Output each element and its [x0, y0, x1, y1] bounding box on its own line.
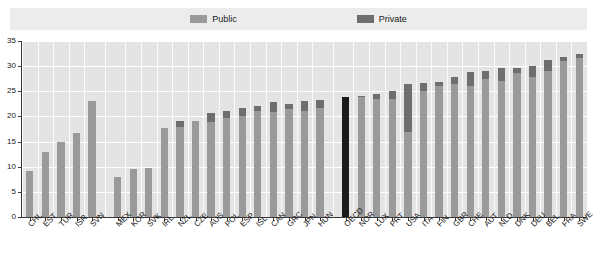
bar-group-irl [161, 41, 168, 217]
bar-group-oecd [342, 41, 349, 217]
bar-segment-public-cze [192, 121, 199, 217]
legend-entry-public: Public [190, 15, 237, 24]
gridline-x-31 [525, 41, 526, 217]
bar-segment-public-can [270, 112, 277, 217]
chart-legend: Public Private [10, 8, 587, 30]
gridline-x-33 [556, 41, 557, 217]
bar-segment-private-hun [316, 100, 323, 108]
gridline-x-1 [38, 41, 39, 217]
y-tick-label-20: 20 [7, 112, 16, 120]
y-tick-mark-30 [18, 66, 22, 67]
bar-group-tur [57, 41, 64, 217]
bar-segment-private-pol [223, 111, 230, 118]
bar-group-deu [529, 41, 536, 217]
gridline-x-20 [353, 41, 354, 217]
bar-group-svn [88, 41, 95, 217]
bar-segment-public-fra [560, 61, 567, 217]
bar-segment-public-esp [239, 116, 246, 217]
legend-entry-private: Private [357, 15, 407, 24]
legend-swatch-public-icon [190, 15, 207, 23]
gridline-x-10 [188, 41, 189, 217]
gridline-x-8 [157, 41, 158, 217]
y-tick-label-25: 25 [7, 87, 16, 95]
bar-segment-private-aus [207, 113, 214, 122]
gridline-x-32 [540, 41, 541, 217]
gridline-x-21 [369, 41, 370, 217]
bar-segment-private-jpn [301, 101, 308, 111]
bar-group-che [467, 41, 474, 217]
bar-group-aus [207, 41, 214, 217]
bar-group-est [42, 41, 49, 217]
bar-group-kor [130, 41, 137, 217]
bar-segment-private-che [467, 72, 474, 87]
bar-group-esp [239, 41, 246, 217]
bar-group-bel [544, 41, 551, 217]
gridline-x-26 [447, 41, 448, 217]
legend-label-private: Private [379, 15, 407, 24]
bar-segment-public-deu [529, 77, 536, 217]
bar-group-nld [498, 41, 505, 217]
bar-segment-public-hun [316, 108, 323, 217]
bar-group-usa [404, 41, 411, 217]
gridline-x-9 [172, 41, 173, 217]
bar-segment-private-gbr [451, 77, 458, 84]
bar-segment-public-svn [88, 101, 95, 217]
bar-group-ita [420, 41, 427, 217]
bar-segment-private-lux [373, 94, 380, 99]
bar-segment-private-oecd [342, 97, 349, 113]
bar-group-nor [358, 41, 365, 217]
gridline-x-27 [462, 41, 463, 217]
y-tick-label-30: 30 [7, 62, 16, 70]
bar-group-svk [145, 41, 152, 217]
legend-label-public: Public [212, 15, 237, 24]
bar-group-isr [73, 41, 80, 217]
gridline-x-14 [250, 41, 251, 217]
bar-segment-private-ita [420, 83, 427, 91]
bar-segment-public-svk [145, 168, 152, 217]
y-axis-line [21, 41, 22, 217]
gridline-x-34 [571, 41, 572, 217]
gridline-x-24 [416, 41, 417, 217]
bar-segment-private-esp [239, 108, 246, 116]
bar-segment-public-bel [544, 71, 551, 217]
bar-group-swe [576, 41, 583, 217]
bar-segment-private-deu [529, 66, 536, 77]
gridline-x-2 [53, 41, 54, 217]
bar-segment-public-kor [130, 169, 137, 217]
bar-group-grc [285, 41, 292, 217]
gridline-x-16 [281, 41, 282, 217]
bar-segment-private-nld [498, 68, 505, 81]
y-tick-label-35: 35 [7, 37, 16, 45]
bar-group-lux [373, 41, 380, 217]
bar-segment-public-aut [482, 79, 489, 217]
bar-group-mex [114, 41, 121, 217]
bar-segment-public-isl [254, 111, 261, 217]
gridline-x-12 [219, 41, 220, 217]
bar-segment-private-swe [576, 54, 583, 59]
bar-segment-public-oecd [342, 113, 349, 217]
bar-segment-private-aut [482, 71, 489, 79]
bar-segment-private-can [270, 102, 277, 113]
gridline-x-0 [22, 41, 23, 217]
gridline-x-29 [494, 41, 495, 217]
legend-swatch-private-icon [357, 15, 374, 23]
bar-segment-public-grc [285, 109, 292, 217]
bar-segment-public-gbr [451, 84, 458, 217]
chart-figure: Public Private 05101520253035 CHLESTTURI… [0, 0, 597, 258]
bar-group-hun [316, 41, 323, 217]
gridline-x-3 [69, 41, 70, 217]
y-tick-mark-5 [18, 192, 22, 193]
bar-group-gbr [451, 41, 458, 217]
bar-segment-private-usa [404, 84, 411, 131]
y-tick-labels: 05101520253035 [0, 0, 16, 258]
bar-segment-private-isl [254, 106, 261, 112]
bar-group-fin [435, 41, 442, 217]
bar-segment-public-pol [223, 118, 230, 217]
gridline-x-25 [431, 41, 432, 217]
bar-group-jpn [301, 41, 308, 217]
bar-group-nzl [176, 41, 183, 217]
gridline-x-22 [385, 41, 386, 217]
bar-group-pol [223, 41, 230, 217]
gridline-x-5 [105, 41, 106, 217]
bar-segment-public-lux [373, 99, 380, 217]
